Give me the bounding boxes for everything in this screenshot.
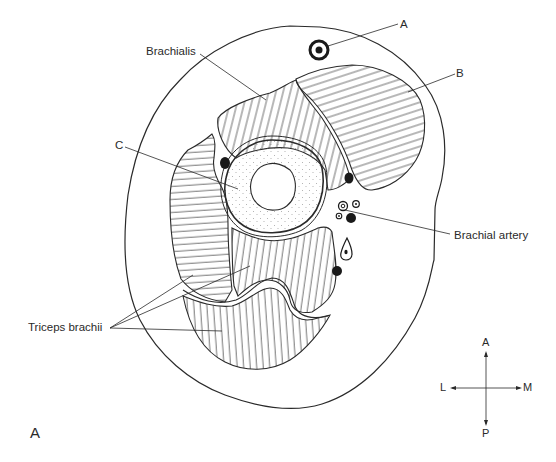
medullary-cavity xyxy=(251,163,296,210)
compass-anterior-label: A xyxy=(482,337,489,348)
brachial-artery-outer xyxy=(339,202,348,211)
compass-posterior-label: P xyxy=(482,428,489,439)
arrow-medial-icon xyxy=(516,386,522,390)
label-b: B xyxy=(456,68,464,80)
cephalic-vein-inner xyxy=(316,47,323,54)
label-a: A xyxy=(400,19,408,31)
label-brachial-artery: Brachial artery xyxy=(454,230,528,242)
leader-brachialis xyxy=(200,54,266,100)
compass-lateral-label: L xyxy=(440,382,446,393)
brachial-vein-2-center xyxy=(338,215,340,217)
ulnar-nerve xyxy=(332,266,342,276)
radial-nerve xyxy=(220,157,230,169)
brachial-artery-inner xyxy=(341,204,345,208)
basilic-vein xyxy=(341,238,352,260)
leader-b xyxy=(408,74,455,92)
arrow-posterior-icon xyxy=(484,420,488,426)
arrow-anterior-icon xyxy=(484,351,488,357)
orientation-compass xyxy=(450,351,522,426)
median-nerve xyxy=(346,213,356,223)
label-c: C xyxy=(115,140,123,152)
label-brachialis: Brachialis xyxy=(146,46,196,58)
brachial-vein-1-center xyxy=(355,203,357,205)
label-triceps-brachii: Triceps brachii xyxy=(28,322,102,334)
panel-label: A xyxy=(30,425,40,440)
leader-a xyxy=(328,24,398,46)
arrow-lateral-icon xyxy=(450,386,456,390)
basilic-vein-center xyxy=(344,250,347,254)
compass-medial-label: M xyxy=(523,382,532,393)
musculocutaneous-nerve xyxy=(345,173,354,184)
leader-triceps-1 xyxy=(110,275,193,328)
